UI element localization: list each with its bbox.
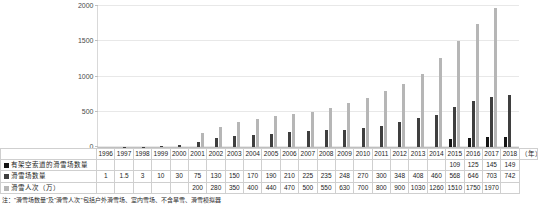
table-cell (97, 160, 115, 171)
bar (197, 142, 200, 147)
bar (256, 119, 259, 147)
table-cell: 742 (501, 171, 519, 182)
year-header-cell: 2001 (188, 149, 206, 160)
bar-group (317, 6, 335, 147)
bar (274, 116, 277, 147)
table-cell: 1.5 (115, 171, 133, 182)
bar (508, 95, 511, 147)
bar-group (226, 6, 244, 147)
table-cell (427, 160, 445, 171)
year-header-cell: 2000 (170, 149, 188, 160)
table-cell: 200 (188, 182, 206, 193)
bar-group (336, 6, 354, 147)
table-body: 有架空索道的滑雪场数量109125145149滑雪场数量11.531030751… (1, 160, 538, 194)
bar (311, 112, 314, 147)
bar (201, 133, 204, 147)
bar-group (354, 6, 372, 147)
table-cell (244, 160, 262, 171)
table-cell: 470 (280, 182, 298, 193)
year-header-cell: 2011 (372, 149, 390, 160)
data-table-wrap: 1996199719981999200020012002200320042005… (0, 148, 538, 194)
year-header-cell: 2010 (354, 149, 372, 160)
table-head: 1996199719981999200020012002200320042005… (1, 149, 538, 160)
table-cell (225, 160, 243, 171)
data-table: 1996199719981999200020012002200320042005… (0, 148, 538, 194)
legend-swatch-icon (4, 186, 9, 191)
series-legend-label: 有架空索道的滑雪场数量 (1, 160, 97, 171)
bar (457, 41, 460, 147)
bar (343, 130, 346, 147)
bar (178, 145, 181, 147)
table-cell (152, 160, 170, 171)
bar (421, 74, 424, 147)
table-cell: 408 (409, 171, 427, 182)
bar-group (116, 6, 134, 147)
table-corner-cell (1, 149, 97, 160)
table-cell (391, 160, 409, 171)
table-cell (262, 160, 280, 171)
table-cell (133, 182, 151, 193)
year-header-cell: 2009 (335, 149, 353, 160)
bar (366, 98, 369, 147)
table-cell: 348 (391, 171, 409, 182)
bar-group (427, 6, 445, 147)
table-cell: 210 (280, 171, 298, 182)
series-legend-label: 滑雪人次（万） (1, 182, 97, 193)
table-cell: 225 (299, 171, 317, 182)
table-cell (170, 182, 188, 193)
bar-chart: 0500100015002000 (0, 0, 538, 148)
bar-group (171, 6, 189, 147)
bar-group (244, 6, 262, 147)
table-cell: 700 (354, 182, 372, 193)
bar-group (446, 6, 464, 147)
series-name-text: 滑雪场数量 (11, 173, 46, 180)
ski-industry-figure: 0500100015002000 19961997199819992000200… (0, 0, 538, 205)
bar (219, 127, 222, 147)
table-cell: 109 (446, 160, 464, 171)
bar-group (189, 6, 207, 147)
bar (476, 24, 479, 147)
year-header-cell: 2015 (446, 149, 464, 160)
y-axis-tick-label: 1000 (78, 72, 94, 79)
year-header-cell: 2014 (427, 149, 445, 160)
bar (233, 136, 236, 147)
y-axis-tick-label: 2000 (78, 2, 94, 9)
table-cell: 190 (262, 171, 280, 182)
year-header-cell: 2007 (299, 149, 317, 160)
table-cell (335, 160, 353, 171)
plot-area: 0500100015002000 (97, 6, 520, 148)
table-cell: 900 (391, 182, 409, 193)
bar (347, 103, 350, 147)
series-legend-label: 滑雪场数量 (1, 171, 97, 182)
bar (468, 138, 471, 147)
table-cell: 400 (244, 182, 262, 193)
bar (237, 122, 240, 147)
table-cell: 10 (152, 171, 170, 182)
year-header-cell: 2017 (482, 149, 500, 160)
bar (252, 135, 255, 147)
legend-swatch-icon (4, 163, 9, 168)
bar-group (98, 6, 116, 147)
bar (362, 128, 365, 147)
bar (490, 97, 493, 147)
table-cell: 1510 (446, 182, 464, 193)
year-header-cell: 2008 (317, 149, 335, 160)
table-cell: 300 (372, 171, 390, 182)
table-cell: 568 (446, 171, 464, 182)
bar-group (464, 6, 482, 147)
bar-group (281, 6, 299, 147)
table-cell: 3 (133, 171, 151, 182)
table-cell: 270 (354, 171, 372, 182)
table-row: 有架空索道的滑雪场数量109125145149 (1, 160, 538, 171)
table-cell: 149 (501, 160, 519, 171)
table-cell (133, 160, 151, 171)
year-header-cell: 2018 (501, 149, 519, 160)
table-cell (501, 182, 519, 193)
bar-group (207, 6, 225, 147)
year-header-cell: 1996 (97, 149, 115, 160)
bar-group (501, 6, 519, 147)
table-cell: 145 (482, 160, 500, 171)
bar (380, 126, 383, 147)
table-cell (299, 160, 317, 171)
bar (288, 132, 291, 147)
